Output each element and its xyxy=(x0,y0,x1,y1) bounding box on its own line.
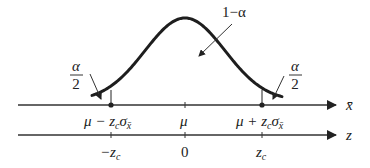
right-critical-point xyxy=(259,102,264,107)
left-tail-fraction: α 2 xyxy=(70,58,83,92)
svg-text:α: α xyxy=(291,58,300,74)
xbar-axis-label: x̄ xyxy=(345,97,353,113)
z-center-label: 0 xyxy=(181,144,189,160)
xbar-right-critical-label: μ + zcσx̄ xyxy=(235,113,284,131)
z-left-label: −zc xyxy=(100,144,121,162)
svg-text:2: 2 xyxy=(72,76,80,92)
right-tail-fraction: α 2 xyxy=(289,58,302,92)
xbar-center-label: μ xyxy=(179,113,188,129)
normal-distribution-diagram: x̄ z μ − zcσx̄ μ μ + zcσx̄ −zc 0 zc 1−α … xyxy=(0,0,370,168)
z-right-label: zc xyxy=(255,144,267,162)
z-axis-label: z xyxy=(345,127,352,143)
xbar-left-critical-label: μ − zcσx̄ xyxy=(83,113,132,131)
bell-curve xyxy=(92,18,282,97)
svg-text:2: 2 xyxy=(291,76,299,92)
svg-text:α: α xyxy=(72,58,81,74)
center-area-label: 1−α xyxy=(222,4,246,20)
left-critical-point xyxy=(108,102,113,107)
